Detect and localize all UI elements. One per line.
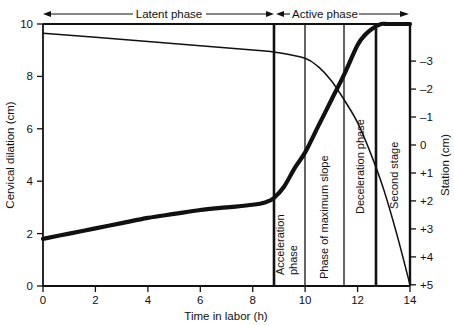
y-ticklabel-4: 4: [27, 175, 34, 187]
second-stage-label: Second stage: [388, 142, 400, 209]
station-ticklabel-m2: –2: [420, 83, 433, 95]
station-ticklabel-p1: +1: [420, 167, 433, 179]
active-phase-label: Active phase: [292, 8, 358, 20]
station-ticklabel-p2: +2: [420, 195, 433, 207]
phase-of-maximum-slope-label: Phase of maximum slope: [318, 156, 330, 280]
x-ticklabel-8: 8: [249, 294, 255, 306]
x-ticklabel-14: 14: [404, 294, 417, 306]
station-ticklabel-m3: –3: [420, 55, 433, 67]
x-ticklabel-6: 6: [197, 294, 203, 306]
station-ticklabel-p4: +4: [420, 251, 434, 263]
station-ticklabel-p3: +3: [420, 223, 433, 235]
chart-svg: Latent phase Active phase 0 2 4 6 8 10 C…: [0, 0, 454, 325]
acceleration-phase-label-line2: phase: [287, 245, 299, 275]
latent-phase-label: Latent phase: [136, 8, 203, 20]
x-ticklabel-12: 12: [351, 294, 364, 306]
friedman-curve-chart: Latent phase Active phase 0 2 4 6 8 10 C…: [0, 0, 454, 325]
y-ticklabel-8: 8: [27, 70, 33, 82]
deceleration-phase-label: Deceleration phase: [354, 119, 366, 214]
chart-background: [0, 0, 454, 325]
y-ticklabel-0: 0: [27, 280, 33, 292]
y-ticklabel-10: 10: [20, 18, 33, 30]
x-axis-label: Time in labor (h): [184, 310, 267, 322]
y-left-axis-label: Cervical dilation (cm): [4, 101, 16, 209]
acceleration-phase-label-line1: Acceleration: [274, 214, 286, 275]
x-ticklabel-10: 10: [299, 294, 312, 306]
y-ticklabel-2: 2: [27, 228, 33, 240]
y-ticklabel-6: 6: [27, 123, 33, 135]
x-ticklabel-4: 4: [145, 294, 152, 306]
station-ticklabel-p5: +5: [420, 279, 433, 291]
x-ticklabel-0: 0: [40, 294, 46, 306]
station-ticklabel-0: 0: [420, 139, 426, 151]
station-ticklabel-m1: –1: [420, 111, 433, 123]
y-right-axis-label: Station (cm): [439, 134, 451, 196]
x-ticklabel-2: 2: [92, 294, 98, 306]
